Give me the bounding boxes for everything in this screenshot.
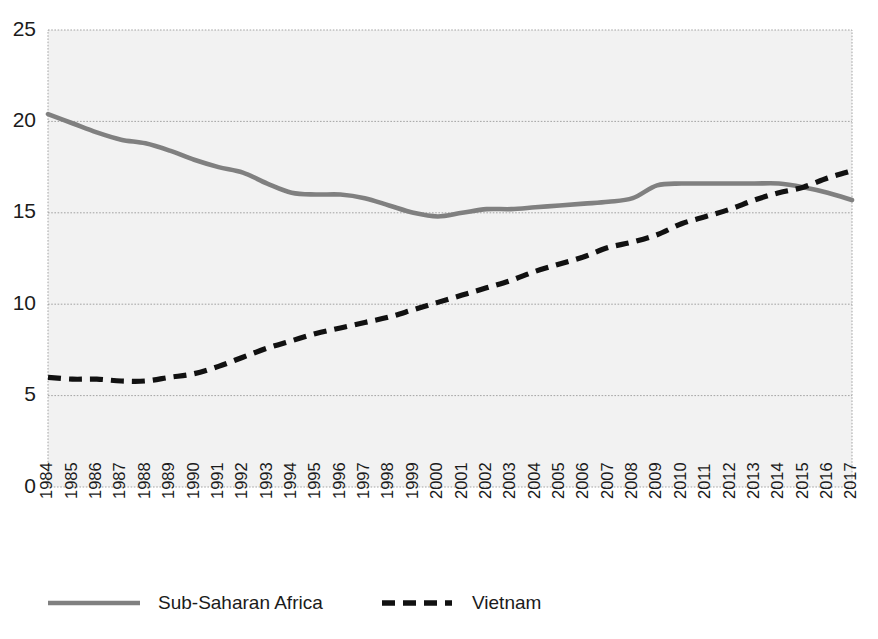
x-tick-1998: 1998 xyxy=(378,462,396,499)
x-tick-2006: 2006 xyxy=(573,462,591,499)
x-tick-2001: 2001 xyxy=(452,462,470,499)
x-tick-1997: 1997 xyxy=(354,462,372,499)
x-tick-2004: 2004 xyxy=(525,462,543,499)
y-tick-5: 5 xyxy=(24,382,36,405)
x-tick-2007: 2007 xyxy=(598,462,616,499)
x-tick-2017: 2017 xyxy=(841,462,859,499)
x-tick-2012: 2012 xyxy=(720,462,738,499)
x-tick-2015: 2015 xyxy=(793,462,811,499)
legend-label-sub-saharan-africa: Sub-Saharan Africa xyxy=(158,592,323,613)
x-tick-1990: 1990 xyxy=(184,462,202,499)
x-tick-2002: 2002 xyxy=(476,462,494,499)
x-tick-1987: 1987 xyxy=(110,462,128,499)
y-tick-25: 25 xyxy=(13,17,36,40)
x-tick-2010: 2010 xyxy=(671,462,689,499)
chart-legend: Sub-Saharan AfricaVietnam xyxy=(48,592,541,613)
x-tick-1989: 1989 xyxy=(159,462,177,499)
y-tick-15: 15 xyxy=(13,199,36,222)
x-tick-1991: 1991 xyxy=(208,462,226,499)
x-tick-1994: 1994 xyxy=(281,462,299,499)
y-tick-0: 0 xyxy=(24,474,36,497)
chart-container: 0510152025 19841985198619871988198919901… xyxy=(0,0,878,639)
y-tick-10: 10 xyxy=(13,291,36,314)
x-tick-1995: 1995 xyxy=(305,462,323,499)
x-tick-2009: 2009 xyxy=(646,462,664,499)
x-tick-2005: 2005 xyxy=(549,462,567,499)
x-tick-1992: 1992 xyxy=(232,462,250,499)
x-tick-2014: 2014 xyxy=(768,462,786,499)
x-tick-2008: 2008 xyxy=(622,462,640,499)
x-tick-1999: 1999 xyxy=(403,462,421,499)
legend-label-vietnam: Vietnam xyxy=(472,592,541,613)
x-tick-1988: 1988 xyxy=(135,462,153,499)
x-tick-1993: 1993 xyxy=(257,462,275,499)
x-tick-2003: 2003 xyxy=(500,462,518,499)
x-tick-2011: 2011 xyxy=(695,464,713,499)
y-axis-tick-labels: 0510152025 xyxy=(13,17,36,497)
line-chart: 0510152025 19841985198619871988198919901… xyxy=(0,0,878,639)
x-tick-2016: 2016 xyxy=(817,462,835,499)
x-tick-1996: 1996 xyxy=(330,462,348,499)
x-tick-1986: 1986 xyxy=(86,462,104,499)
x-tick-2013: 2013 xyxy=(744,462,762,499)
plot-background xyxy=(48,30,852,487)
x-tick-2000: 2000 xyxy=(427,462,445,499)
y-tick-20: 20 xyxy=(13,108,36,131)
x-tick-1985: 1985 xyxy=(62,462,80,499)
x-tick-1984: 1984 xyxy=(37,462,55,499)
